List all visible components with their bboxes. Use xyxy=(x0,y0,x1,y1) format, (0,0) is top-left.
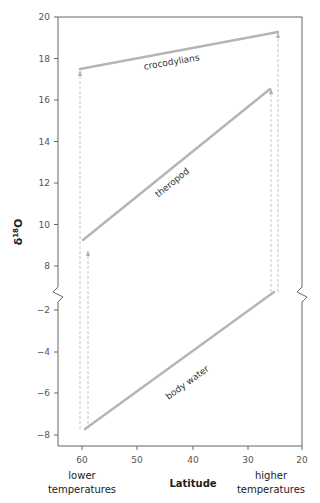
dashed-arrows xyxy=(80,36,278,429)
y-tick-label: −6 xyxy=(37,388,51,398)
x-annotation-left-line1: lower xyxy=(68,470,96,481)
x-tick-label: 30 xyxy=(242,455,254,465)
theropod-line xyxy=(83,89,270,240)
x-tick-label: 40 xyxy=(187,455,199,465)
x-annotation-right-line1: higher xyxy=(255,470,288,481)
y-tick-label: 18 xyxy=(39,54,51,64)
y-tick-label: 8 xyxy=(44,261,50,271)
series-label-body-water: body water xyxy=(164,363,211,401)
y-tick-label: 20 xyxy=(39,12,51,22)
y-tick-label: −4 xyxy=(37,347,51,357)
y-tick-label: −8 xyxy=(37,430,51,440)
x-tick-label: 50 xyxy=(131,455,143,465)
x-axis-labels: 60 50 40 30 20 xyxy=(76,455,308,465)
x-annotation-left-line2: temperatures xyxy=(48,484,116,495)
x-annotation-right-line2: temperatures xyxy=(237,484,305,495)
y-tick-label: 14 xyxy=(39,137,51,147)
chart: 20 18 16 14 12 10 8 −2 −4 −6 −8 δ18O 60 … xyxy=(0,0,320,503)
y-axis-ticks xyxy=(54,17,58,435)
y-tick-label: 10 xyxy=(39,220,51,230)
y-axis-title: δ18O xyxy=(12,219,25,246)
y-axis-labels: 20 18 16 14 12 10 8 −2 −4 −6 −8 xyxy=(37,12,51,440)
y-tick-label: 16 xyxy=(39,95,51,105)
series-lines xyxy=(80,32,278,429)
x-axis-title: Latitude xyxy=(169,478,216,489)
x-tick-label: 60 xyxy=(76,455,88,465)
x-tick-label: 20 xyxy=(296,455,308,465)
body-water-line xyxy=(85,292,274,429)
y-tick-label: 12 xyxy=(39,178,50,188)
series-label-theropod: theropod xyxy=(153,166,191,199)
y-tick-label: −2 xyxy=(37,305,50,315)
svg-text:δ18O: δ18O xyxy=(12,219,25,246)
x-axis-ticks xyxy=(82,446,302,450)
